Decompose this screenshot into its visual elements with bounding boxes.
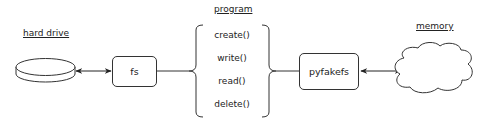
fs-label: fs bbox=[130, 66, 138, 77]
pyfakefs-node: pyfakefs bbox=[299, 53, 359, 90]
hard-drive-label: hard drive bbox=[23, 28, 69, 38]
memory-cloud-icon bbox=[395, 42, 472, 92]
method-read: read() bbox=[192, 76, 272, 86]
hard-drive-disk-icon bbox=[16, 59, 75, 83]
method-create: create() bbox=[192, 30, 272, 40]
program-label: program bbox=[214, 4, 252, 14]
fs-node: fs bbox=[112, 56, 157, 87]
method-delete: delete() bbox=[192, 99, 272, 109]
pyfakefs-label: pyfakefs bbox=[309, 66, 349, 77]
method-write: write() bbox=[192, 53, 272, 63]
memory-label: memory bbox=[416, 21, 454, 31]
